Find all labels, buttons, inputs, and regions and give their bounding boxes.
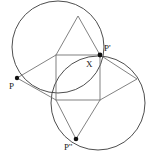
center-square: [56, 55, 100, 100]
label-point-p: P: [9, 82, 14, 91]
circle-upper-left: [12, 1, 104, 93]
point-p-prime: [98, 53, 103, 58]
segment-p-to-square-top-left: [17, 55, 56, 78]
point-p: [15, 76, 19, 80]
segment-p-to-square-bottom-left: [17, 78, 56, 100]
segment-right-apex-to-square-bottom-right: [100, 79, 137, 100]
geometry-figure: P P' X P'': [0, 0, 153, 165]
segment-p-double-prime-to-square-bottom-left: [56, 100, 76, 139]
label-point-x: X: [86, 60, 93, 69]
segment-top-apex-to-square-top-left: [56, 16, 78, 55]
label-point-p-double-prime: P'': [64, 143, 72, 152]
segment-right-apex-to-p-prime: [100, 55, 137, 79]
point-p-double-prime: [74, 137, 79, 142]
figure-canvas: [0, 0, 153, 165]
label-point-p-prime: P': [104, 44, 111, 53]
segment-p-double-prime-to-square-bottom-right: [76, 100, 100, 139]
